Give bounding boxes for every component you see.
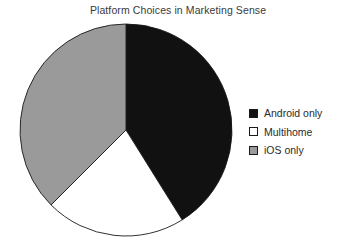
legend-label-multihome: Multihome xyxy=(264,127,312,138)
legend-item-ios-only[interactable]: iOS only xyxy=(249,141,353,160)
legend-item-android-only[interactable]: Android only xyxy=(249,104,353,123)
legend-label-android-only: Android only xyxy=(264,108,322,119)
pie-plot-area xyxy=(18,22,234,238)
legend-label-ios-only: iOS only xyxy=(264,145,304,156)
legend-item-multihome[interactable]: Multihome xyxy=(249,123,353,142)
legend-swatch-ios-only xyxy=(249,146,258,155)
pie-chart-figure: Platform Choices in Marketing Sense Andr… xyxy=(0,0,356,242)
legend-swatch-android-only xyxy=(249,109,258,118)
pie-svg xyxy=(18,22,234,238)
legend-swatch-multihome xyxy=(249,127,258,136)
chart-legend: Android only Multihome iOS only xyxy=(249,104,353,160)
chart-title: Platform Choices in Marketing Sense xyxy=(0,4,356,16)
pie-slices xyxy=(20,24,232,236)
